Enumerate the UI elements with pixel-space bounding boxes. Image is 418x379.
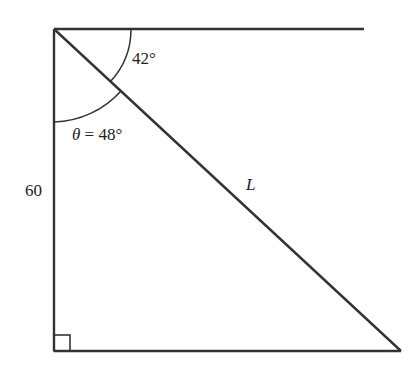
hypotenuse <box>54 29 401 351</box>
angle-label-theta: θ = 48° <box>72 126 122 143</box>
angle-arc-42 <box>110 29 131 82</box>
right-angle-marker <box>54 335 70 351</box>
triangle-diagram <box>0 0 418 379</box>
side-label-60: 60 <box>25 182 42 199</box>
theta-value: = 48° <box>80 125 122 144</box>
hypotenuse-label: L <box>246 176 255 193</box>
angle-arc-theta <box>54 91 121 122</box>
angle-label-42: 42° <box>132 50 156 67</box>
